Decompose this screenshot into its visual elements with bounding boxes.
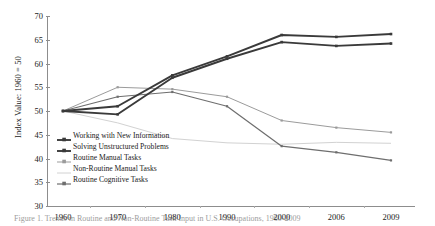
legend-item[interactable]: Routine Manual Tasks bbox=[56, 153, 169, 163]
series-marker bbox=[280, 34, 283, 37]
series-line bbox=[63, 87, 391, 132]
series-marker bbox=[281, 119, 283, 121]
chart-legend: Working with New InformationSolving Unst… bbox=[56, 131, 169, 185]
series-marker bbox=[171, 74, 174, 77]
series-marker bbox=[390, 159, 392, 161]
legend-label: Routine Cognitive Tasks bbox=[72, 175, 148, 185]
x-minor-tick bbox=[254, 206, 255, 208]
series-marker bbox=[390, 42, 393, 45]
y-tick-label: 30 bbox=[35, 201, 44, 211]
series-marker bbox=[281, 145, 283, 147]
series-line bbox=[63, 42, 391, 114]
legend-item[interactable]: Routine Cognitive Tasks bbox=[56, 175, 169, 185]
series-marker bbox=[390, 131, 392, 133]
series-marker bbox=[117, 96, 119, 98]
series-marker bbox=[335, 127, 337, 129]
series-marker bbox=[171, 88, 173, 90]
y-axis-title: Index Value: 1960 = 50 bbox=[13, 17, 23, 177]
x-minor-tick bbox=[364, 206, 365, 208]
series-marker bbox=[226, 55, 229, 58]
x-minor-tick bbox=[200, 206, 201, 208]
y-tick-label: 55 bbox=[35, 82, 44, 92]
legend-swatch-icon bbox=[56, 153, 72, 163]
y-tick-label: 35 bbox=[35, 177, 44, 187]
legend-item[interactable]: Solving Unstructured Problems bbox=[56, 142, 169, 152]
x-minor-tick bbox=[145, 206, 146, 208]
series-marker bbox=[335, 151, 337, 153]
legend-swatch-icon bbox=[56, 131, 72, 141]
legend-label: Routine Manual Tasks bbox=[72, 153, 141, 163]
legend-swatch-icon bbox=[56, 164, 72, 174]
series-marker bbox=[62, 110, 65, 113]
figure-caption: Figure 1. Trends in Routine and Non-Rout… bbox=[14, 214, 424, 223]
legend-item[interactable]: Non-Routine Manual Tasks bbox=[56, 164, 169, 174]
series-marker bbox=[226, 57, 229, 60]
series-marker bbox=[117, 86, 119, 88]
legend-swatch-icon bbox=[56, 175, 72, 185]
legend-swatch-icon bbox=[56, 142, 72, 152]
y-tick bbox=[46, 206, 50, 207]
y-tick-label: 45 bbox=[35, 130, 44, 140]
series-marker bbox=[335, 36, 338, 39]
x-minor-tick bbox=[309, 206, 310, 208]
legend-label: Solving Unstructured Problems bbox=[72, 142, 169, 152]
series-marker bbox=[390, 33, 393, 36]
y-tick-label: 60 bbox=[35, 59, 44, 69]
legend-label: Non-Routine Manual Tasks bbox=[72, 164, 157, 174]
series-marker bbox=[335, 45, 338, 48]
series-marker bbox=[116, 105, 119, 108]
series-marker bbox=[226, 105, 228, 107]
series-marker bbox=[171, 91, 173, 93]
legend-label: Working with New Information bbox=[72, 131, 169, 141]
series-marker bbox=[280, 41, 283, 44]
y-tick-label: 65 bbox=[35, 35, 44, 45]
y-tick-label: 70 bbox=[35, 11, 44, 21]
x-minor-tick bbox=[90, 206, 91, 208]
legend-item[interactable]: Working with New Information bbox=[56, 131, 169, 141]
x-axis-line bbox=[47, 206, 415, 207]
series-marker bbox=[226, 96, 228, 98]
y-tick-label: 40 bbox=[35, 154, 44, 164]
series-marker bbox=[116, 113, 119, 116]
y-tick-label: 50 bbox=[35, 106, 44, 116]
figure-container: Index Value: 1960 = 50 30354045505560657… bbox=[0, 0, 435, 226]
